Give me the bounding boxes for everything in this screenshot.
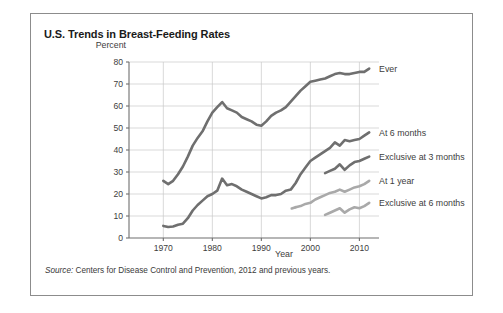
x-axis-tick-labels: 19701980199020002010 [154, 243, 369, 253]
y-tick-label: 10 [113, 211, 123, 221]
series-line [325, 203, 369, 215]
x-tick-label: 1980 [203, 243, 222, 253]
y-axis-title: Percent [96, 40, 127, 50]
data-series-lines [163, 69, 369, 227]
series-end-label: At 1 year [379, 176, 414, 186]
y-axis-tick-labels: 01020304050607080 [113, 57, 123, 243]
series-end-label: Exclusive at 6 months [379, 198, 465, 208]
x-tick-label: 2000 [301, 243, 320, 253]
x-tick-label: 1970 [154, 243, 173, 253]
series-end-label: Exclusive at 3 months [379, 152, 465, 162]
plot-area-container: 01020304050607080 19701980199020002010 E… [31, 14, 474, 297]
series-end-labels: EverAt 6 monthsExclusive at 3 monthsAt 1… [379, 64, 465, 208]
x-tick-label: 2010 [350, 243, 369, 253]
y-tick-label: 40 [113, 145, 123, 155]
y-tick-label: 60 [113, 101, 123, 111]
y-tick-label: 50 [113, 123, 123, 133]
x-axis-title: Year [275, 249, 293, 259]
y-tick-label: 20 [113, 189, 123, 199]
source-note: Source: Centers for Disease Control and … [45, 266, 330, 275]
series-line [163, 132, 369, 227]
series-end-label: At 6 months [379, 128, 427, 138]
gridlines [129, 62, 379, 238]
series-end-label: Ever [379, 64, 397, 74]
line-chart: 01020304050607080 19701980199020002010 E… [31, 14, 474, 297]
chart-figure-frame: U.S. Trends in Breast-Feeding Rates 0102… [30, 13, 473, 296]
source-label: Source: [45, 266, 73, 275]
y-tick-label: 30 [113, 167, 123, 177]
y-tick-label: 0 [118, 233, 123, 243]
y-tick-label: 80 [113, 57, 123, 67]
x-tick-label: 1990 [252, 243, 271, 253]
y-tick-label: 70 [113, 79, 123, 89]
series-line-dash-segment [292, 207, 296, 208]
series-line [325, 157, 369, 174]
source-text: Centers for Disease Control and Preventi… [76, 266, 331, 275]
